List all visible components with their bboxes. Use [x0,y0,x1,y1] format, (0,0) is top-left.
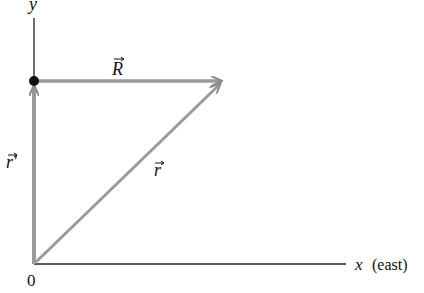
x-direction-label: (east) [372,256,408,274]
vector-r [36,84,220,262]
origin-label: 0 [27,271,36,290]
label-r: r [154,160,164,180]
label-r-prime: r′ [6,152,18,172]
x-axis-label: x [354,255,363,274]
vector-diagram: y x (east) 0 R r′ r [0,0,424,293]
start-point [29,76,39,86]
svg-text:R: R [111,59,123,79]
y-axis-label: y [27,0,37,14]
label-R: R [111,57,124,79]
